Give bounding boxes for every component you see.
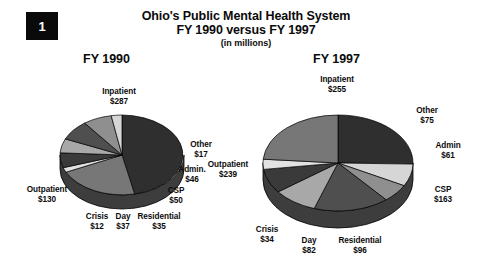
label-name: Inpatient	[306, 75, 368, 85]
label-value: $82	[295, 246, 323, 256]
label-value: $239	[197, 170, 259, 180]
label-value: $96	[336, 246, 384, 256]
pie-label-fy1997-csp: CSP $163	[424, 185, 462, 204]
label-name: Admin	[429, 141, 467, 151]
pie-label-fy1997-admin: Admin $61	[429, 141, 467, 160]
label-name: CSP	[424, 185, 462, 195]
label-value: $75	[409, 116, 445, 126]
label-name: Crisis	[250, 225, 284, 235]
pie-label-fy1997-inpatient: Inpatient $255	[306, 75, 368, 94]
pie-label-fy1997-outpatient: Outpatient $239	[197, 160, 259, 179]
label-value: $61	[429, 151, 467, 161]
pie-label-fy1997-day: Day $82	[295, 236, 323, 255]
label-name: Day	[295, 236, 323, 246]
slide-canvas: 1 Ohio's Public Mental Health System FY …	[0, 0, 483, 279]
pie-label-fy1997-other: Other $75	[409, 106, 445, 125]
label-value: $163	[424, 195, 462, 205]
label-value: $34	[250, 235, 284, 245]
pie-label-fy1997-crisis: Crisis $34	[250, 225, 284, 244]
label-name: Residential	[336, 236, 384, 246]
label-name: Outpatient	[197, 160, 259, 170]
label-name: Other	[409, 106, 445, 116]
pie-chart-fy1997	[0, 0, 483, 279]
pie-label-fy1997-residential: Residential $96	[336, 236, 384, 255]
label-value: $255	[306, 85, 368, 95]
